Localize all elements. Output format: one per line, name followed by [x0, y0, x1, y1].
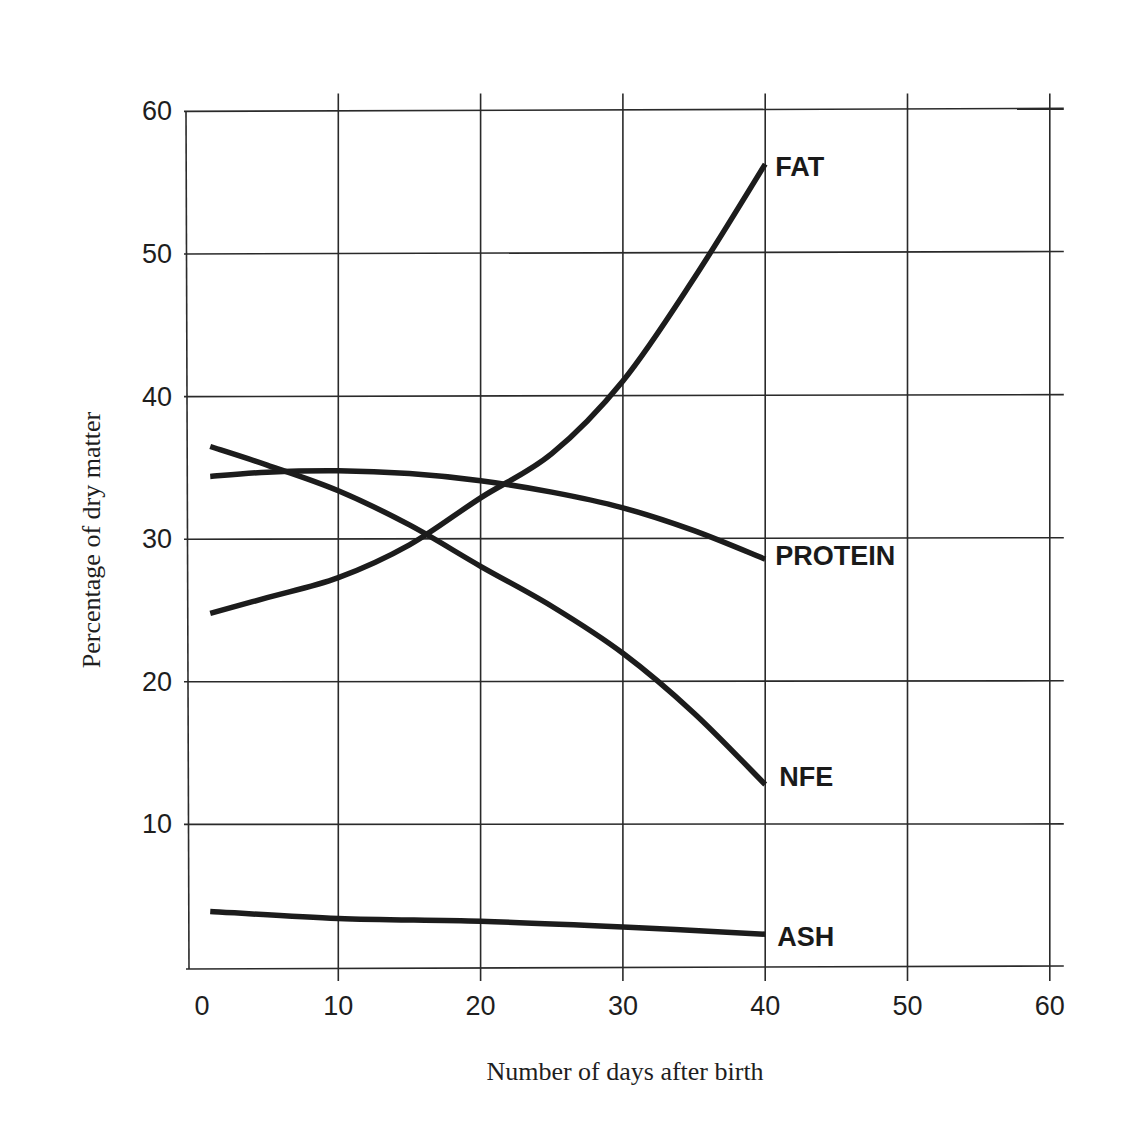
y-tick-label: 40 — [142, 382, 172, 412]
x-tick-label: 30 — [608, 991, 638, 1021]
series-label-fat: FAT — [775, 152, 824, 182]
x-tick-label: 0 — [194, 991, 209, 1021]
h-gridline — [184, 538, 1064, 540]
y-axis-title: Percentage of dry matter — [77, 412, 106, 669]
series-label-ash: ASH — [777, 922, 834, 952]
y-tick-label: 60 — [142, 96, 172, 126]
y-axis-tick-labels: 102030405060 — [142, 96, 172, 839]
series-line-protein — [210, 471, 765, 559]
x-tick-label: 10 — [323, 991, 353, 1021]
y-tick-label: 10 — [142, 809, 172, 839]
y-tick-label: 20 — [142, 667, 172, 697]
series-line-nfe — [210, 447, 765, 785]
h-gridline — [184, 681, 1064, 682]
chart-series — [210, 164, 765, 934]
y-tick-label: 30 — [142, 524, 172, 554]
series-label-nfe: NFE — [779, 762, 833, 792]
v-gridline — [186, 111, 189, 969]
series-line-ash — [210, 911, 765, 934]
series-line-fat — [210, 164, 765, 613]
x-axis-line — [186, 966, 1064, 969]
h-gridline — [184, 252, 1064, 255]
x-tick-label: 50 — [892, 991, 922, 1021]
y-tick-label: 50 — [142, 239, 172, 269]
h-gridline — [184, 395, 1064, 397]
series-label-protein: PROTEIN — [775, 541, 895, 571]
x-tick-label: 60 — [1035, 991, 1065, 1021]
composition-line-chart: 102030405060 0102030405060 FATPROTEINNFE… — [0, 0, 1134, 1143]
h-gridline — [184, 824, 1064, 825]
x-axis-tick-labels: 0102030405060 — [194, 991, 1064, 1021]
x-axis-title: Number of days after birth — [486, 1057, 763, 1086]
x-tick-label: 20 — [466, 991, 496, 1021]
x-tick-label: 40 — [750, 991, 780, 1021]
h-gridline — [184, 108, 1064, 111]
series-labels: FATPROTEINNFEASH — [775, 152, 895, 952]
chart-grid — [184, 93, 1064, 981]
